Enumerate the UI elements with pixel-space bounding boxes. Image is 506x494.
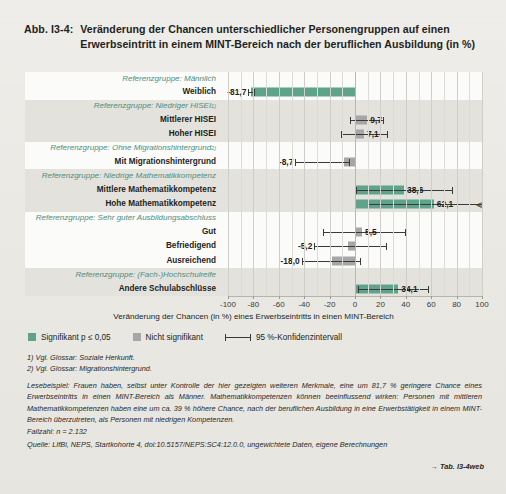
reference-group-label: Referenzgruppe: Männlich [25, 72, 222, 85]
confidence-interval-whisker [248, 92, 255, 93]
category-label: Hoher HISEI [25, 127, 222, 142]
axis-tick-label: -20 [324, 300, 336, 309]
chart-row: Hoher HISEI7,1 [25, 127, 482, 142]
reference-group-label: Referenzgruppe: Niedrige Mathematikkompe… [25, 169, 222, 182]
ci-cap-right [386, 243, 387, 250]
axis-tick-label: -80 [248, 300, 260, 309]
bar-value-label: -81,7 [227, 87, 246, 97]
category-label: Ausreichend [25, 254, 222, 269]
row-plot [228, 72, 482, 85]
row-plot: 34,1 [228, 281, 482, 296]
axis-tick [228, 296, 229, 299]
axis-tick [431, 296, 432, 299]
row-plot: 7,1 [228, 127, 482, 142]
legend-swatch-not-significant-icon [133, 333, 141, 341]
row-plot: -18,0 [228, 254, 482, 269]
bar-value-label: 62,1 [437, 199, 453, 209]
row-plot: -8,7 [228, 155, 482, 170]
axis-tick-label: -100 [220, 300, 236, 309]
axis-tick-label: 60 [427, 300, 436, 309]
confidence-interval-whisker [314, 246, 386, 247]
confidence-interval-whisker [295, 162, 350, 163]
footnote-marker: 1) [211, 101, 216, 111]
reference-group-row: Referenzgruppe: Ohne Migrationshintergru… [25, 142, 482, 155]
axis-tick-label: 40 [401, 300, 410, 309]
axis-tick-label: 0 [353, 300, 357, 309]
legend-label-significant: Signifikant p ≤ 0,05 [41, 333, 111, 342]
category-label: Gut [25, 225, 222, 240]
axis-tick-label: -40 [298, 300, 310, 309]
footnote-2: 2) Vgl. Glossar: Migrationshintergrund. [27, 363, 482, 374]
ci-cap-left [314, 243, 315, 250]
axis-tick-label: 100 [475, 300, 488, 309]
ci-cap-right [387, 131, 388, 138]
axis-tick [253, 296, 254, 299]
bar-value-label: 5,5 [365, 227, 377, 237]
ci-cap-left [341, 131, 342, 138]
chart-row: Befriedigend-5,2 [25, 239, 482, 254]
legend-item-ci: 95 %-Konfidenzintervall [225, 333, 342, 342]
row-plot: -5,2 [228, 239, 482, 254]
chart-row: Hohe Mathematikkompetenz⫷62,1 [25, 197, 482, 212]
footnote-marker: 2) [211, 143, 216, 153]
row-plot: -81,7 [228, 85, 482, 100]
axis-tick [304, 296, 305, 299]
row-plot: ⫷62,1 [228, 197, 482, 212]
figure-title-block: Abb. I3-4: Veränderung der Chancen unter… [24, 22, 486, 52]
legend-label-not-significant: Nicht signifikant [146, 333, 203, 342]
ci-cap-left [356, 187, 357, 194]
bar-value-label: 9,7 [370, 115, 382, 125]
ci-cap-left [302, 258, 303, 265]
ci-cap-left [295, 159, 296, 166]
chart-legend: Signifikant p ≤ 0,05 Nicht signifikant 9… [28, 330, 478, 344]
chart-row: Mit Migrationshintergrund-8,7 [25, 155, 482, 170]
ci-cap-right [452, 187, 453, 194]
ci-cap-right [405, 229, 406, 236]
legend-item-not-significant: Nicht signifikant [133, 333, 203, 342]
axis-tick [482, 296, 483, 299]
row-plot: 5,5 [228, 225, 482, 240]
reference-group-label: Referenzgruppe: (Fach-)Hochschulreife [25, 268, 222, 281]
bar-value-label: -8,7 [279, 157, 293, 167]
figure-notes: 1) Vgl. Glossar: Soziale Herkunft. 2) Vg… [27, 352, 482, 450]
axis-tick-label: -60 [273, 300, 285, 309]
ci-cap-left [323, 229, 324, 236]
chart-row: Andere Schulabschlüsse34,1 [25, 281, 482, 296]
table-reference-link[interactable]: → Tab. I3-4web [430, 462, 484, 471]
reference-group-row: Referenzgruppe: (Fach-)Hochschulreife [25, 268, 482, 281]
ci-cap-right [428, 286, 429, 293]
figure-number: Abb. I3-4: [24, 22, 80, 37]
bar-value-label: 34,1 [401, 284, 417, 294]
axis-tick [330, 296, 331, 299]
row-plot [228, 169, 482, 182]
figure-page: Abb. I3-4: Veränderung der Chancen unter… [0, 0, 506, 494]
reference-group-row: Referenzgruppe: Männlich [25, 72, 482, 85]
axis-break-icon: ⫷ [476, 199, 482, 210]
category-label: Befriedigend [25, 239, 222, 254]
chart-row: Ausreichend-18,0 [25, 254, 482, 269]
category-label: Mittlere Mathematikkompetenz [25, 182, 222, 197]
ci-cap-left [358, 286, 359, 293]
source-note: Quelle: LIfBi, NEPS, Startkohorte 4, doi… [27, 439, 482, 450]
ci-cap-left [248, 89, 249, 96]
confidence-interval-whisker [358, 289, 429, 290]
chart-plot-area: Referenzgruppe: MännlichWeiblich-81,7Ref… [25, 72, 482, 296]
reading-example: Lesebeispiel: Frauen haben, selbst unter… [27, 380, 482, 426]
bar-value-label: -18,0 [281, 256, 300, 266]
chart-bar [251, 88, 355, 97]
reference-group-label: Referenzgruppe: Sehr guter Ausbildungsab… [25, 212, 222, 225]
confidence-interval-whisker [368, 204, 482, 205]
axis-tick [380, 296, 381, 299]
row-plot [228, 142, 482, 155]
reference-group-row: Referenzgruppe: Niedrige Mathematikkompe… [25, 169, 482, 182]
row-plot: 9,7 [228, 113, 482, 128]
legend-ci-whisker-icon [225, 333, 251, 341]
bar-value-label: 7,1 [367, 129, 379, 139]
chart-rows: Referenzgruppe: MännlichWeiblich-81,7Ref… [25, 72, 482, 296]
ci-cap-left [350, 117, 351, 124]
confidence-interval-whisker [356, 190, 453, 191]
bar-value-label: 38,6 [407, 185, 423, 195]
axis-title: Veränderung der Chancen (in %) eines Erw… [25, 312, 482, 321]
row-plot: 38,6 [228, 182, 482, 197]
axis-tick [355, 296, 356, 299]
